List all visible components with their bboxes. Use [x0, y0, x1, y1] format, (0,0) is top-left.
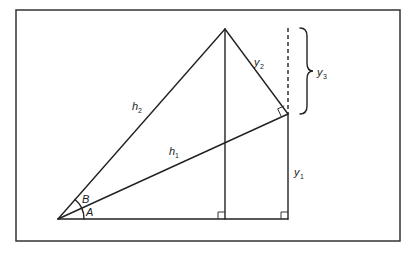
svg-text:1: 1	[300, 173, 304, 180]
angle-a-arc	[82, 208, 84, 219]
svg-text:3: 3	[323, 73, 327, 80]
right-angle-marker-right-foot	[281, 212, 288, 219]
hypotenuse-h1	[58, 114, 288, 219]
segment-y2	[225, 29, 288, 114]
hypotenuse-h2	[58, 29, 225, 219]
angle-b-arc	[75, 200, 82, 208]
svg-text:2: 2	[260, 63, 264, 70]
label-h2: h 2	[132, 100, 142, 114]
svg-text:1: 1	[175, 152, 179, 159]
label-y1: y 1	[293, 166, 304, 180]
diagram-frame	[16, 10, 400, 241]
brace-y3	[300, 28, 313, 114]
label-angle-a: A	[85, 206, 93, 218]
right-angle-marker-apex-foot	[218, 212, 225, 219]
geometry-diagram: h 2 h 1 y 2 y 3 y 1 B A	[0, 0, 415, 254]
label-angle-b: B	[82, 193, 89, 205]
label-y2: y 2	[253, 56, 264, 70]
label-y3: y 3	[316, 66, 327, 80]
svg-text:2: 2	[138, 107, 142, 114]
label-h1: h 1	[169, 145, 179, 159]
